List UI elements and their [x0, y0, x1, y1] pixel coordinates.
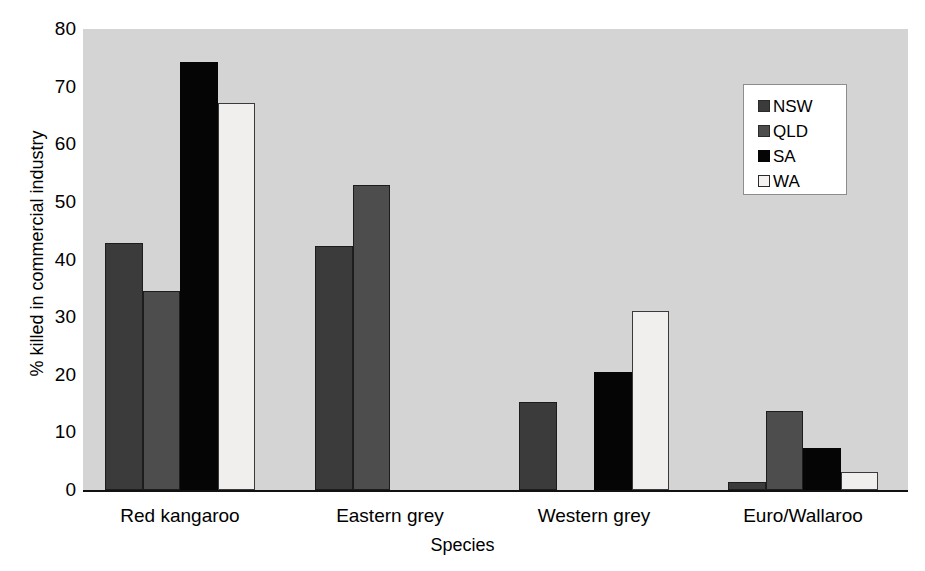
bar-wa-3 [841, 472, 879, 490]
x-axis-title: Species [0, 535, 925, 556]
bar-sa-3 [803, 448, 841, 490]
legend-item-wa[interactable]: WA [758, 169, 846, 193]
legend-item-sa[interactable]: SA [758, 144, 846, 168]
x-tick-label-1: Eastern grey [290, 505, 490, 527]
bar-nsw-1 [315, 246, 353, 490]
bar-wa-2 [632, 311, 670, 490]
legend-label: NSW [773, 98, 813, 115]
legend-item-qld[interactable]: QLD [758, 119, 846, 143]
x-tick-label-2: Western grey [494, 505, 694, 527]
bar-qld-0 [143, 291, 181, 490]
bar-qld-1 [353, 185, 391, 490]
legend-label: SA [773, 148, 796, 165]
bar-wa-0 [218, 103, 256, 490]
bar-nsw-0 [105, 243, 143, 490]
bar-nsw-3 [728, 482, 766, 490]
legend-label: QLD [773, 123, 808, 140]
x-axis-line [83, 490, 908, 492]
y-tick-label: 80 [32, 19, 76, 38]
legend-swatch-icon-wa [758, 175, 770, 187]
legend-label: WA [773, 173, 800, 190]
y-axis-title: % killed in commercial industry [27, 54, 48, 454]
legend-swatch-icon-nsw [758, 100, 770, 112]
bar-nsw-2 [519, 402, 557, 490]
bar-sa-2 [594, 372, 632, 490]
chart-legend: NSWQLDSAWA [743, 84, 847, 195]
legend-item-nsw[interactable]: NSW [758, 94, 846, 118]
legend-swatch-icon-sa [758, 150, 770, 162]
legend-swatch-icon-qld [758, 125, 770, 137]
y-tick-label: 0 [32, 480, 76, 499]
plot-area: NSWQLDSAWA [83, 29, 908, 490]
bar-chart-figure: 01020304050607080 % killed in commercial… [0, 0, 925, 571]
x-tick-label-3: Euro/Wallaroo [703, 505, 903, 527]
bar-qld-3 [766, 411, 804, 490]
bar-sa-0 [180, 62, 218, 490]
x-tick-label-0: Red kangaroo [80, 505, 280, 527]
